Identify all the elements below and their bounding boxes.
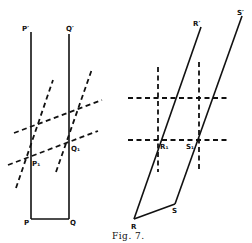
dashed-line-through-q1 <box>56 69 92 172</box>
line-s-sprime <box>175 16 242 204</box>
figure-7-diagram: P′ Q′ P₁ Q₁ P Q R′ S′ R₁ S₁ R S Fig. 7. <box>0 0 252 243</box>
label-s-prime: S′ <box>237 9 244 17</box>
dashed-line-p1-q1 <box>8 131 98 165</box>
figure-caption: Fig. 7. <box>112 231 145 241</box>
label-r1: R₁ <box>160 143 168 151</box>
label-q1: Q₁ <box>71 145 80 153</box>
label-s: S <box>172 207 177 215</box>
label-r: R <box>131 223 137 231</box>
label-p1: P₁ <box>32 160 40 168</box>
left-diagram: P′ Q′ P₁ Q₁ P Q <box>8 25 102 227</box>
right-diagram: R′ S′ R₁ S₁ R S <box>128 9 244 231</box>
line-r-s <box>134 204 175 219</box>
label-q: Q <box>70 219 76 227</box>
dashed-line-through-p1 <box>16 80 53 188</box>
label-q-prime: Q′ <box>66 25 74 33</box>
dashed-line-upper <box>14 100 102 133</box>
label-s1: S₁ <box>186 143 194 151</box>
label-p-prime: P′ <box>22 25 29 33</box>
line-r-rprime <box>134 27 201 219</box>
label-r-prime: R′ <box>193 20 200 28</box>
label-p: P <box>24 219 29 227</box>
